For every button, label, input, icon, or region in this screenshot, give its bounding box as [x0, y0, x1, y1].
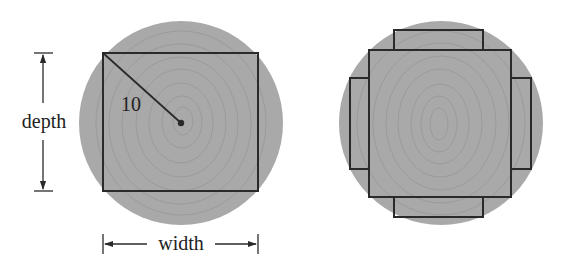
- radius-label: 10: [121, 93, 141, 115]
- left-log: 10 depth width: [22, 21, 283, 254]
- depth-label: depth: [22, 110, 66, 133]
- width-label: width: [158, 232, 204, 254]
- right-log: [339, 21, 543, 225]
- center-dot: [178, 120, 184, 126]
- log-cross-section-diagram: 10 depth width: [0, 0, 561, 263]
